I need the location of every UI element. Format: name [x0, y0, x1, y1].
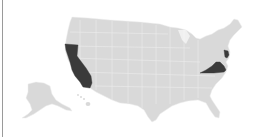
us-map	[0, 0, 256, 137]
state-alaska	[22, 82, 72, 118]
state-hawaii	[77, 94, 90, 106]
